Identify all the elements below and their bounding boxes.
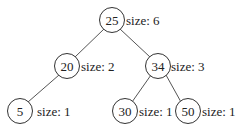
node-size-label: size: 1 [139, 104, 173, 119]
edge-34-50 [166, 75, 181, 102]
node-size-label: size: 1 [202, 104, 236, 119]
node-size-label: size: 3 [171, 59, 205, 74]
node-value: 30 [119, 104, 132, 119]
edge-20-5 [28, 75, 59, 102]
node-value: 5 [17, 104, 24, 119]
node-value: 34 [152, 59, 166, 74]
node-size-label: size: 2 [81, 59, 115, 74]
edge-25-34 [120, 29, 150, 57]
node-value: 20 [61, 59, 74, 74]
tree-node-30: 30 size: 1 [113, 99, 173, 124]
tree-node-50: 50 size: 1 [176, 99, 236, 124]
tree-diagram: 25 size: 6 20 size: 2 34 size: 3 5 size:… [0, 0, 238, 130]
tree-node-25: 25 size: 6 [100, 8, 161, 33]
node-value: 25 [106, 13, 119, 28]
edge-25-20 [75, 29, 104, 57]
tree-node-5: 5 size: 1 [8, 99, 71, 124]
tree-node-34: 34 size: 3 [146, 54, 205, 79]
tree-node-20: 20 size: 2 [55, 54, 115, 79]
edge-34-30 [132, 75, 151, 102]
node-size-label: size: 1 [37, 104, 71, 119]
node-size-label: size: 6 [126, 13, 160, 28]
node-value: 50 [182, 104, 195, 119]
